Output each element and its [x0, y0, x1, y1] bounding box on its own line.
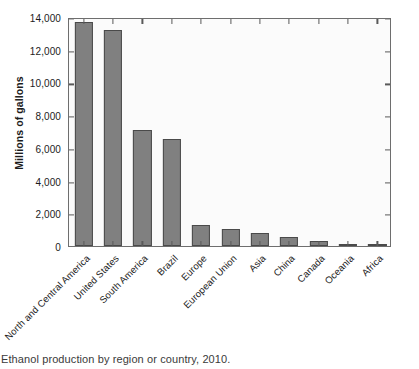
x-tick-label: European Union	[181, 253, 239, 311]
y-tick-mark	[69, 149, 74, 150]
y-tick-mark	[69, 182, 74, 183]
x-tick-mark-top	[347, 19, 348, 24]
y-tick-label: 8,000	[0, 111, 68, 122]
x-tick-mark	[83, 241, 84, 246]
y-tick-mark-right	[385, 117, 390, 118]
y-tick-label: 4,000	[0, 176, 68, 187]
x-tick-mark-top	[289, 19, 290, 24]
bar	[104, 30, 122, 246]
x-tick-mark	[230, 241, 231, 246]
x-tick-mark	[347, 241, 348, 246]
x-tick-mark-top	[318, 19, 319, 24]
y-tick-label: 6,000	[0, 143, 68, 154]
x-tick-label: Asia	[246, 253, 267, 274]
x-tick-mark-top	[112, 19, 113, 24]
x-tick-mark	[142, 241, 143, 246]
y-tick-label: 14,000	[0, 13, 68, 24]
bar	[133, 130, 151, 246]
y-tick-mark-right	[385, 149, 390, 150]
y-tick-label: 0	[0, 242, 68, 253]
x-tick-label: Brazil	[154, 253, 179, 278]
y-tick-mark	[69, 51, 74, 52]
plot-inner	[69, 19, 390, 246]
x-tick-mark	[259, 241, 260, 246]
y-tick-mark-right	[385, 215, 390, 216]
bar	[75, 22, 93, 246]
bar	[163, 139, 181, 246]
x-tick-mark-top	[142, 19, 143, 24]
y-tick-mark	[69, 84, 74, 85]
y-tick-mark-right	[385, 51, 390, 52]
x-tick-mark	[112, 241, 113, 246]
x-tick-mark	[289, 241, 290, 246]
x-tick-mark	[171, 241, 172, 246]
plot-area	[68, 18, 391, 247]
x-tick-mark	[318, 241, 319, 246]
y-tick-mark-right	[385, 19, 390, 20]
y-tick-mark	[69, 215, 74, 216]
ethanol-production-bar-chart: Millions of gallons 02,0004,0006,0008,00…	[0, 0, 419, 369]
x-tick-label: China	[271, 253, 297, 279]
y-tick-label: 10,000	[0, 78, 68, 89]
x-tick-mark-top	[259, 19, 260, 24]
x-tick-mark	[201, 241, 202, 246]
x-tick-label: Oceania	[322, 253, 356, 287]
x-tick-mark-top	[230, 19, 231, 24]
x-tick-mark-top	[377, 19, 378, 24]
figure-caption: Ethanol production by region or country,…	[1, 353, 230, 365]
y-tick-mark-right	[385, 84, 390, 85]
x-tick-label: Canada	[294, 253, 326, 285]
y-tick-label: 2,000	[0, 209, 68, 220]
x-tick-mark	[377, 241, 378, 246]
x-tick-label: Africa	[360, 253, 386, 279]
y-tick-mark	[69, 117, 74, 118]
x-tick-mark-top	[83, 19, 84, 24]
y-tick-mark	[69, 19, 74, 20]
y-tick-label: 12,000	[0, 45, 68, 56]
x-tick-mark-top	[171, 19, 172, 24]
x-tick-mark-top	[201, 19, 202, 24]
y-tick-mark-right	[385, 182, 390, 183]
